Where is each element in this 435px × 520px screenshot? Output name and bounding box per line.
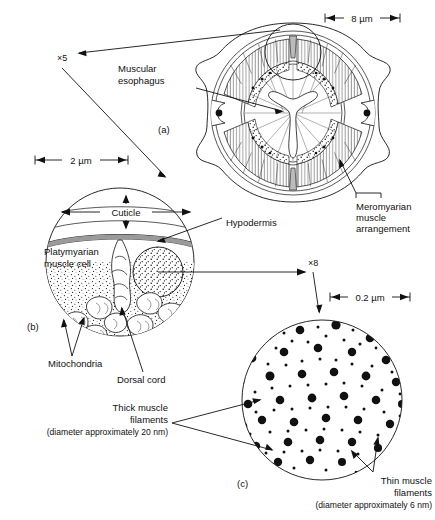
panel-c-illustration: Thick muscle filaments (diameter approxi… bbox=[47, 315, 433, 510]
thick-filaments bbox=[226, 320, 414, 466]
leader-a-to-b-magnify bbox=[79, 30, 280, 53]
leader-mitochondria bbox=[61, 316, 85, 356]
scalebar-panel-c: 0.2 µm bbox=[330, 289, 410, 305]
leader-x8-to-panel-c bbox=[313, 272, 322, 314]
label-dorsal-cord: Dorsal cord bbox=[117, 374, 166, 385]
label-thin-filaments-line2: filaments bbox=[394, 487, 432, 498]
nematode-cross-section-figure: 8 µm ×5 Muscular esophagus (a) Meromyari… bbox=[0, 0, 435, 520]
label-thick-filaments-line1: Thick muscle bbox=[113, 402, 168, 413]
label-thick-filaments-line2: filaments bbox=[130, 414, 168, 425]
magnification-a-to-b: ×5 bbox=[57, 53, 67, 63]
panel-b-illustration: Cuticle Platymyarian muscle cell Hypoder… bbox=[27, 188, 322, 385]
scalebar-panel-b: 2 µm bbox=[35, 152, 128, 168]
label-thick-filaments-line3: (diameter approximately 20 nm) bbox=[47, 427, 168, 437]
scalebar-label-a: 8 µm bbox=[351, 13, 372, 24]
magnification-b-to-c: ×8 bbox=[308, 258, 318, 268]
panel-label-c: (c) bbox=[237, 478, 248, 489]
panel-label-a: (a) bbox=[158, 124, 170, 135]
panel-label-b: (b) bbox=[27, 321, 39, 332]
label-hypodermis: Hypodermis bbox=[226, 217, 277, 228]
label-muscular-esophagus-line2: esophagus bbox=[118, 75, 165, 86]
label-meromyarian-line1: Meromyarian bbox=[356, 201, 411, 212]
label-muscular-esophagus-line1: Muscular bbox=[118, 63, 157, 74]
label-cuticle: Cuticle bbox=[111, 207, 140, 218]
scalebar-label-b: 2 µm bbox=[70, 155, 91, 166]
label-platymyarian-line2: muscle cell bbox=[44, 258, 91, 269]
label-thin-filaments-line1: Thin muscle bbox=[381, 475, 432, 486]
scalebar-panel-a: 8 µm bbox=[325, 10, 400, 26]
label-thin-filaments-line3: (diameter approximately 6 nm) bbox=[315, 500, 432, 510]
label-mitochondria: Mitochondria bbox=[48, 358, 103, 369]
figure-canvas: 8 µm ×5 Muscular esophagus (a) Meromyari… bbox=[0, 0, 435, 520]
panel-a-illustration bbox=[77, 23, 390, 202]
label-meromyarian-line3: arrangement bbox=[356, 223, 410, 234]
label-platymyarian-line1: Platymyarian bbox=[44, 246, 99, 257]
scalebar-label-c: 0.2 µm bbox=[355, 292, 384, 303]
label-meromyarian-line2: muscle bbox=[356, 212, 386, 223]
thin-filaments bbox=[225, 315, 417, 474]
